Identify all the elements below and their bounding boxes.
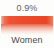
bar-fill-women[interactable] [1,16,53,24]
bar-category-label: Women [0,35,54,46]
bar-track [1,16,53,25]
bar-chart-widget: 0.9% Women [0,0,54,48]
bar-value-label: 0.9% [0,3,54,14]
